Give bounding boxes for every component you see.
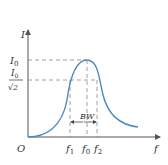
half-power-numerator: I0	[10, 68, 19, 79]
tick-f0: f0	[81, 143, 90, 156]
resonance-diagram: BW I f O I0 I0 √2 f1 f0 f2	[0, 0, 168, 165]
x-axis-label: f	[153, 143, 160, 154]
resonance-curve	[28, 60, 138, 137]
half-power-denominator: √2	[8, 83, 18, 92]
tick-f2: f2	[93, 143, 102, 156]
y-axis-label: I	[20, 29, 26, 40]
origin-label: O	[17, 143, 25, 154]
tick-f1: f1	[65, 143, 74, 156]
guide-lines	[28, 60, 97, 137]
bandwidth-label: BW	[79, 112, 95, 121]
peak-level-label: I0	[9, 55, 18, 68]
